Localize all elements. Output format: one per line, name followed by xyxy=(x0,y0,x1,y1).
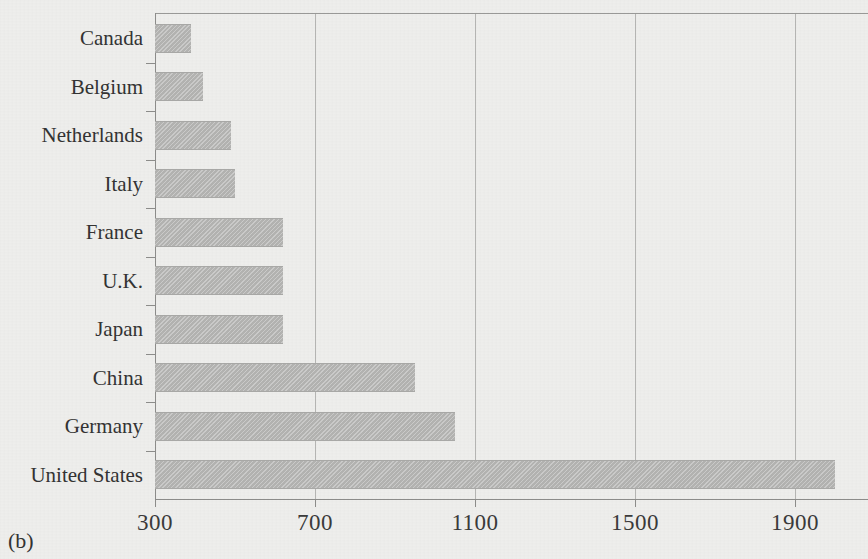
category-label-japan: Japan xyxy=(95,317,143,342)
x-axis-line xyxy=(155,499,868,500)
category-label-u-k: U.K. xyxy=(102,268,143,293)
y-tick-mark-3 xyxy=(146,208,155,209)
bar-china xyxy=(155,363,415,392)
x-tick-mark-300 xyxy=(155,499,156,507)
x-tick-label-1500: 1500 xyxy=(611,510,659,536)
category-label-canada: Canada xyxy=(80,26,143,51)
bar-japan xyxy=(155,315,283,344)
x-tick-mark-1500 xyxy=(635,499,636,507)
gridline-1500 xyxy=(635,14,636,499)
bar-u-k xyxy=(155,266,283,295)
y-tick-mark-7 xyxy=(146,402,155,403)
category-label-france: France xyxy=(86,220,143,245)
panel-label: (b) xyxy=(8,528,34,554)
bar-chart-figure: 300700110015001900 CanadaBelgiumNetherla… xyxy=(0,0,868,559)
x-tick-mark-1100 xyxy=(475,499,476,507)
bar-france xyxy=(155,218,283,247)
y-tick-mark-5 xyxy=(146,305,155,306)
bar-belgium xyxy=(155,72,203,101)
bar-united-states xyxy=(155,460,835,489)
y-tick-mark-2 xyxy=(146,160,155,161)
category-label-china: China xyxy=(93,365,143,390)
gridline-1900 xyxy=(795,14,796,499)
gridline-1100 xyxy=(475,14,476,499)
y-tick-mark-6 xyxy=(146,354,155,355)
x-tick-label-300: 300 xyxy=(137,510,173,536)
x-tick-label-1900: 1900 xyxy=(771,510,819,536)
category-label-netherlands: Netherlands xyxy=(42,123,143,148)
x-tick-label-700: 700 xyxy=(297,510,333,536)
bar-italy xyxy=(155,169,235,198)
bar-netherlands xyxy=(155,121,231,150)
category-label-united-states: United States xyxy=(30,462,143,487)
category-label-belgium: Belgium xyxy=(71,74,143,99)
x-tick-label-1100: 1100 xyxy=(451,510,498,536)
plot-top-border xyxy=(155,13,868,14)
x-tick-mark-700 xyxy=(315,499,316,507)
y-tick-mark-8 xyxy=(146,451,155,452)
x-tick-mark-1900 xyxy=(795,499,796,507)
category-label-germany: Germany xyxy=(65,414,143,439)
y-tick-mark-4 xyxy=(146,257,155,258)
y-tick-mark-1 xyxy=(146,111,155,112)
y-tick-mark-0 xyxy=(146,63,155,64)
category-label-italy: Italy xyxy=(105,171,143,196)
bar-germany xyxy=(155,412,455,441)
bar-canada xyxy=(155,24,191,53)
